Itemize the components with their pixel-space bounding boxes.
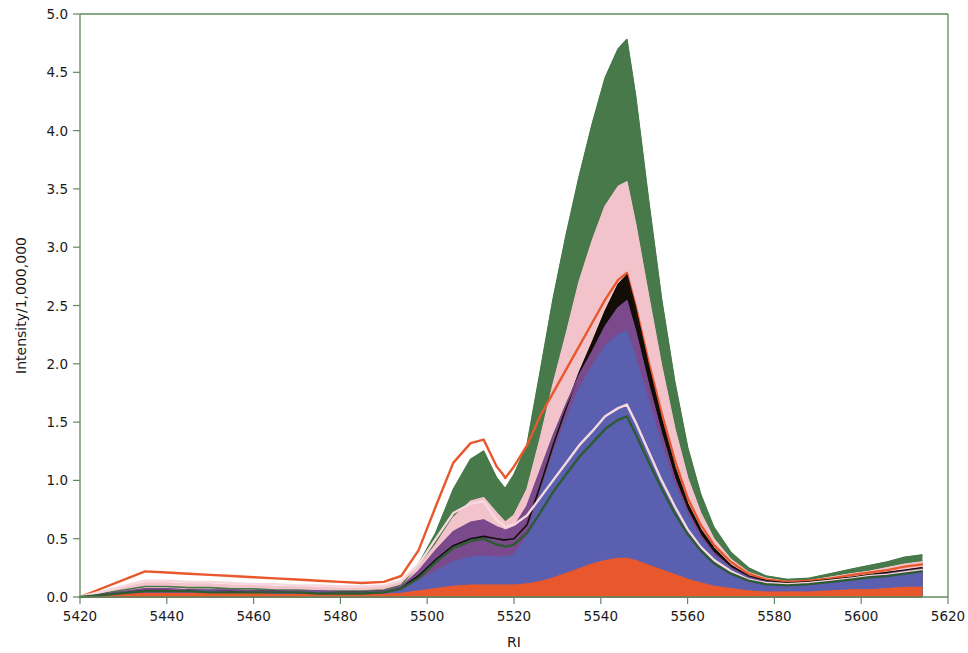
line-trace-blue: [80, 331, 922, 597]
y-tick-label: 1.5: [47, 414, 68, 430]
x-tick-label: 5460: [236, 608, 270, 624]
area-trace-purple: [80, 301, 922, 597]
y-tick-label: 0.0: [47, 589, 68, 605]
x-axis-title: RI: [507, 634, 521, 650]
x-tick-label: 5540: [584, 608, 618, 624]
x-tick-label: 5600: [844, 608, 878, 624]
y-tick-label: 3.0: [47, 239, 68, 255]
x-tick-label: 5520: [497, 608, 531, 624]
y-tick-label: 4.0: [47, 123, 68, 139]
x-tick-label: 5560: [670, 608, 704, 624]
y-tick-label: 0.5: [47, 531, 68, 547]
x-tick-label: 5620: [931, 608, 965, 624]
y-axis-title: Intensity/1,000,000: [13, 237, 29, 374]
y-tick-label: 3.5: [47, 181, 68, 197]
y-tick-label: 5.0: [47, 6, 68, 22]
y-tick-label: 2.0: [47, 356, 68, 372]
y-tick-label: 4.5: [47, 64, 68, 80]
x-tick-label: 5440: [150, 608, 184, 624]
x-tick-label: 5420: [63, 608, 97, 624]
x-tick-label: 5480: [323, 608, 357, 624]
x-tick-label: 5580: [757, 608, 791, 624]
x-tick-label: 5500: [410, 608, 444, 624]
area-trace-green: [80, 40, 922, 597]
intensity-vs-ri-chart: 0.00.51.01.52.02.53.03.54.04.55.05420544…: [0, 0, 968, 653]
chart-container: 0.00.51.01.52.02.53.03.54.04.55.05420544…: [0, 0, 968, 653]
area-fills-group: [80, 40, 922, 597]
y-tick-label: 1.0: [47, 472, 68, 488]
y-tick-label: 2.5: [47, 298, 68, 314]
